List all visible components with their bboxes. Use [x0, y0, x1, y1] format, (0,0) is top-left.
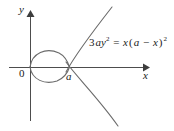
equation-minus: −: [142, 36, 150, 48]
node-label: a: [66, 71, 72, 82]
curve-branch-lower: [66, 62, 118, 126]
origin-label: 0: [19, 68, 25, 79]
equation-coefficient: 3: [88, 36, 96, 48]
equation-paren-exponent: 2: [163, 35, 167, 43]
x-axis-label: x: [143, 70, 148, 81]
math-figure: y x 0 a 3ay2 = x(a − x)2: [0, 0, 174, 131]
y-axis-label: y: [19, 4, 24, 15]
y-axis-arrowhead: [27, 10, 35, 17]
equation-y-exponent: 2: [106, 35, 110, 43]
equation-a-symbol-2: a: [134, 36, 140, 48]
curve-loop-lower: [30, 67, 70, 82]
curve-plot: [0, 0, 174, 131]
equation-equals: =: [112, 36, 120, 48]
curve-loop-upper: [30, 51, 70, 67]
equation-label: 3ay2 = x(a − x)2: [88, 36, 167, 48]
